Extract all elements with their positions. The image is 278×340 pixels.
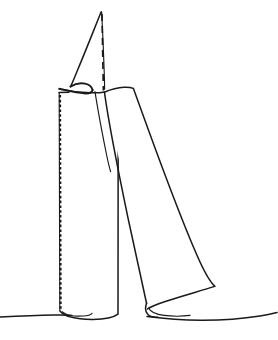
figure-canvas: Line drawing of folded sheet and cylindr…: [0, 0, 278, 340]
cylinder-body-fill: [59, 93, 118, 314]
peak-flap-fill: [70, 12, 112, 90]
ground-line-group: [0, 313, 277, 321]
peak-flap: [70, 12, 112, 90]
line-drawing-svg: Line drawing of folded sheet and cylindr…: [0, 0, 278, 340]
ground-line-left: [0, 315, 72, 317]
ground-line-right: [147, 313, 277, 321]
right-panel-curl-inner: [149, 308, 190, 316]
right-panel-fill: [105, 88, 215, 305]
